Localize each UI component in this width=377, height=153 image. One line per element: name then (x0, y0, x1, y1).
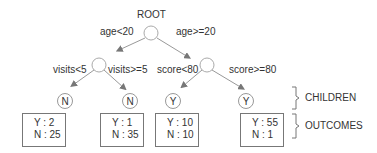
outcome-box-2: Y : 1 N : 35 (100, 113, 144, 147)
leaf-node-4: Y (238, 93, 254, 109)
edge-label-age-ge-20: age>=20 (176, 26, 216, 38)
edge-label-age-lt-20: age<20 (100, 26, 134, 38)
root-node (144, 26, 158, 40)
edge-label-score-ge-80: score>=80 (229, 64, 276, 76)
outcome-no-count: N : 25 (23, 129, 65, 141)
right-node (200, 58, 214, 72)
edge-label-visits-lt-5: visits<5 (53, 64, 87, 76)
legend-children: CHILDREN (305, 92, 356, 104)
outcome-yes-count: Y : 1 (101, 117, 143, 129)
outcome-yes-count: Y : 55 (241, 117, 283, 129)
root-label: ROOT (137, 9, 166, 21)
legend-outcomes: OUTCOMES (305, 120, 363, 132)
outcome-no-count: N : 10 (156, 129, 198, 141)
leaf-node-2: N (122, 93, 138, 109)
edge-label-score-lt-80: score<80 (157, 64, 198, 76)
leaf-node-1: N (57, 93, 73, 109)
outcome-yes-count: Y : 10 (156, 117, 198, 129)
outcome-no-count: N : 1 (241, 129, 283, 141)
children-brace (292, 87, 299, 109)
leaf-node-3: Y (165, 93, 181, 109)
outcome-box-4: Y : 55 N : 1 (240, 113, 284, 147)
outcomes-brace (292, 114, 299, 138)
outcome-no-count: N : 35 (101, 129, 143, 141)
outcome-yes-count: Y : 2 (23, 117, 65, 129)
left-node (92, 58, 106, 72)
outcome-box-1: Y : 2 N : 25 (22, 113, 66, 147)
outcome-box-3: Y : 10 N : 10 (155, 113, 199, 147)
edge-label-visits-ge-5: visits>=5 (108, 64, 147, 76)
